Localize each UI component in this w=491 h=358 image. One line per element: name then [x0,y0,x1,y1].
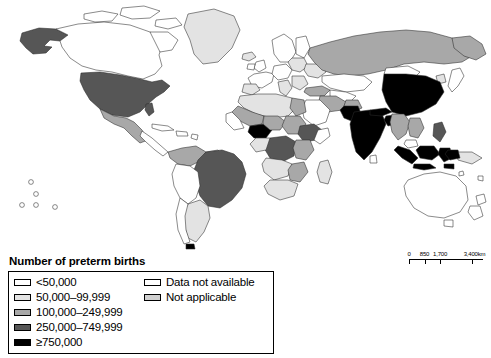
region-pacific-island-a [459,171,464,176]
legend-item-250000-749999[interactable]: 250,000–749,999 [14,321,144,334]
legend-label-100000-249999: 100,000–249,999 [36,306,123,319]
legend-item-data-not-available[interactable]: Data not available [144,276,254,289]
scalebar-label-850: 850 [420,250,429,259]
scalebar-tick-1700 [440,259,441,264]
map-legend: Number of preterm births <50,000 50,000–… [8,255,274,354]
legend-column-status: Data not available Not applicable [144,276,254,349]
choropleth-map: .c{stroke:#2b2b2b;stroke-width:0.55;stro… [0,0,491,270]
legend-item-not-applicable[interactable]: Not applicable [144,291,254,304]
region-sri-lanka [370,155,377,163]
island-marker-4 [34,203,39,208]
legend-swatch-50000-99999 [14,294,31,301]
scalebar-axis [409,259,483,266]
legend-item-gte-750000[interactable]: ≥750,000 [14,336,144,349]
legend-swatch-100000-249999 [14,309,31,316]
region-ireland [247,64,255,70]
map-scalebar: 0 850 1,700 3,400km [409,250,483,266]
legend-label-not-applicable: Not applicable [166,291,236,304]
legend-box: <50,000 50,000–99,999 100,000–249,999 25… [8,271,274,354]
legend-label-gte-750000: ≥750,000 [36,336,82,349]
legend-title: Number of preterm births [9,255,274,268]
island-marker-2 [34,192,39,197]
island-marker-1 [29,180,34,185]
scalebar-label-3400: 3,400km [464,250,486,259]
region-tierra-del-fuego [186,244,195,249]
legend-column-values: <50,000 50,000–99,999 100,000–249,999 25… [14,276,144,349]
island-marker-5 [53,205,58,210]
scalebar-label-1700: 1,700 [433,250,447,259]
scalebar-tick-850 [425,259,426,264]
legend-label-250000-749999: 250,000–749,999 [36,321,123,334]
region-pacific-island-b [478,176,483,181]
legend-swatch-data-not-available [144,279,161,286]
legend-label-lt-50000: <50,000 [36,276,77,289]
legend-item-50000-99999[interactable]: 50,000–99,999 [14,291,144,304]
legend-swatch-lt-50000 [14,279,31,286]
legend-label-50000-99999: 50,000–99,999 [36,291,110,304]
world-map-figure: .c{stroke:#2b2b2b;stroke-width:0.55;stro… [0,0,491,358]
scalebar-labels: 0 850 1,700 3,400km [409,250,483,259]
region-timor [444,164,454,169]
legend-swatch-250000-749999 [14,324,31,331]
legend-label-data-not-available: Data not available [166,276,254,289]
scalebar-tick-0 [409,259,410,264]
scalebar-tick-3400 [472,259,473,264]
region-tasmania [444,220,453,227]
island-marker-3 [20,203,25,208]
scalebar-label-0: 0 [407,250,410,259]
region-hispaniola [176,131,188,136]
legend-item-100000-249999[interactable]: 100,000–249,999 [14,306,144,319]
legend-item-lt-50000[interactable]: <50,000 [14,276,144,289]
legend-swatch-gte-750000 [14,339,31,346]
legend-swatch-not-applicable [144,294,161,301]
